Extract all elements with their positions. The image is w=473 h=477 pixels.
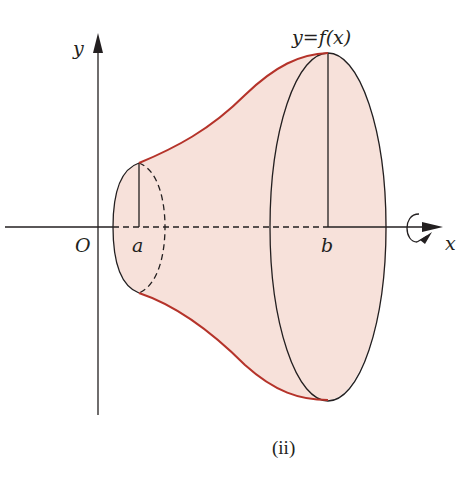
figure-caption: (ii) [272, 437, 295, 459]
y-axis-label: y [72, 37, 84, 59]
origin-label: O [75, 234, 91, 256]
y-axis-arrow-icon [93, 33, 103, 53]
point-b-label: b [321, 234, 333, 256]
solid-of-revolution-diagram: y x O a b y=f(x) (ii) [0, 0, 473, 477]
x-axis-label: x [445, 232, 456, 254]
point-a-label: a [132, 234, 143, 256]
x-axis-arrow-icon [422, 222, 443, 232]
function-label: y=f(x) [291, 26, 351, 48]
